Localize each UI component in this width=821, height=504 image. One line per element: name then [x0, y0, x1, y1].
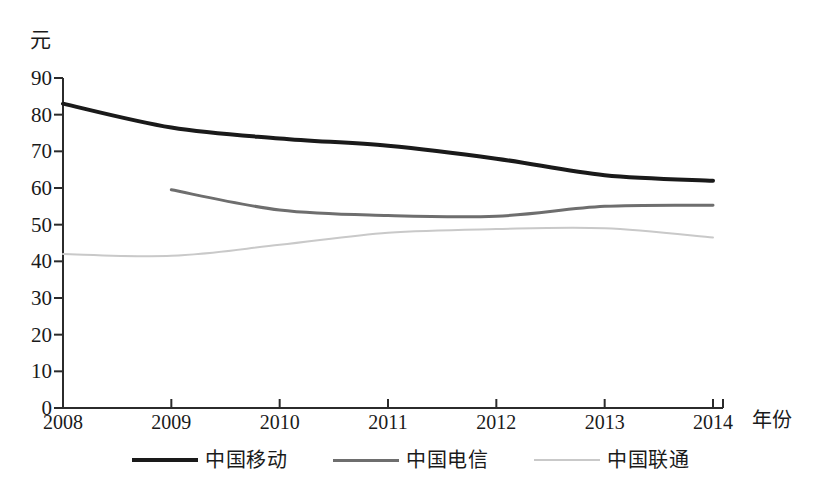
y-axis-tick-label: 20	[31, 324, 52, 345]
y-axis-tick-label: 80	[31, 104, 52, 125]
y-axis-tick-label: 30	[31, 288, 52, 309]
legend-swatch-icon	[534, 459, 600, 461]
legend-swatch-icon	[333, 459, 399, 462]
y-axis-tick-label: 90	[31, 68, 52, 89]
legend-label: 中国联通	[607, 450, 689, 470]
x-axis-label: 年份	[752, 410, 792, 430]
series-line-1	[63, 104, 713, 181]
y-axis-tick-label: 10	[31, 361, 52, 382]
legend-label: 中国电信	[406, 450, 488, 470]
x-axis-tick-label: 2010	[260, 412, 300, 432]
chart-series	[63, 104, 713, 257]
legend-swatch-icon	[132, 458, 198, 462]
x-axis-tick-label: 2009	[151, 412, 191, 432]
legend-item[interactable]: 中国电信	[333, 450, 488, 470]
chart-axes	[54, 78, 723, 408]
y-axis-tick-label: 70	[31, 141, 52, 162]
x-axis-tick-label: 2014	[693, 412, 733, 432]
line-chart-figure: 元 年份 0102030405060708090 200820092010201…	[0, 0, 821, 504]
legend-item[interactable]: 中国联通	[534, 450, 689, 470]
chart-legend: 中国移动中国电信中国联通	[0, 440, 821, 480]
x-axis-tick-label: 2013	[585, 412, 625, 432]
y-axis-tick-label: 50	[31, 214, 52, 235]
x-axis-tick-label: 2008	[43, 412, 83, 432]
y-axis-tick-label: 40	[31, 251, 52, 272]
y-axis-tick-label: 60	[31, 178, 52, 199]
x-axis-tick-label: 2012	[476, 412, 516, 432]
series-line-2	[171, 190, 713, 217]
series-line-3	[63, 228, 713, 257]
legend-item[interactable]: 中国移动	[132, 450, 287, 470]
legend-label: 中国移动	[205, 450, 287, 470]
x-axis-tick-label: 2011	[368, 412, 407, 432]
